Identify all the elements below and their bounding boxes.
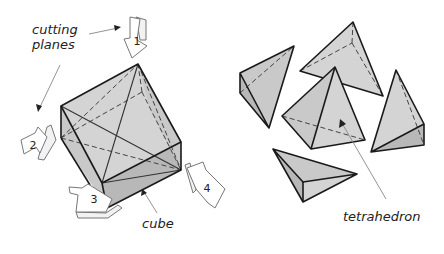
leader-line-to-cube bbox=[144, 192, 157, 213]
plane-arrow-2: 2 bbox=[21, 125, 56, 160]
leader-line-to-plane-1 bbox=[89, 28, 118, 34]
tetrahedron-piece-d bbox=[371, 70, 424, 152]
plane-number-4: 4 bbox=[204, 182, 211, 195]
tetrahedron-label: tetrahedron bbox=[343, 209, 421, 224]
plane-number-2: 2 bbox=[30, 139, 37, 152]
plane-number-1: 1 bbox=[134, 35, 141, 48]
plane-number-3: 3 bbox=[91, 193, 98, 206]
plane-arrow-4: 4 bbox=[185, 162, 225, 208]
cube bbox=[61, 64, 181, 208]
cube-label: cube bbox=[142, 216, 174, 231]
tetrahedron-piece-e bbox=[273, 149, 357, 202]
cutting-planes-label-line1: cutting bbox=[32, 22, 78, 37]
plane-arrow-1: 1 bbox=[124, 17, 147, 58]
cutting-planes-label-line2: planes bbox=[31, 37, 75, 52]
leader-line-to-plane-2 bbox=[40, 65, 60, 107]
diagram-canvas: 1 2 3 4 cutting planes cube bbox=[0, 0, 444, 254]
leader-arrowhead bbox=[114, 25, 121, 31]
